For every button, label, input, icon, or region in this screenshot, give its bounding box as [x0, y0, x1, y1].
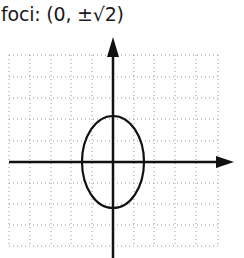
y-axis-arrow-icon — [107, 37, 119, 57]
ellipse-graph — [0, 0, 244, 258]
x-axis — [9, 156, 234, 168]
x-axis-arrow-icon — [216, 156, 234, 168]
